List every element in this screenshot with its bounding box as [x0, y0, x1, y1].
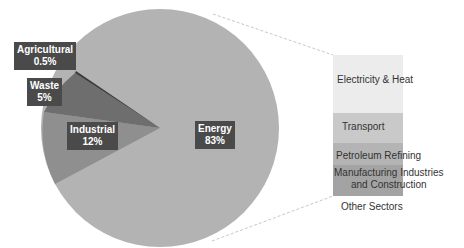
label-energy-value: 83% — [198, 135, 232, 147]
label-energy: Energy 83% — [195, 121, 235, 149]
bar-label-petroleum-refining: Petroleum Refining — [336, 150, 421, 162]
label-waste-name: Waste — [30, 80, 59, 92]
label-agricultural: Agricultural 0.5% — [14, 42, 76, 70]
label-agricultural-value: 0.5% — [17, 56, 73, 68]
label-industrial-name: Industrial — [70, 124, 115, 136]
bar-label-manufacturing: Manufacturing Industries and Constructio… — [334, 167, 444, 191]
bar-label-electricity-heat: Electricity & Heat — [337, 74, 413, 86]
bar-label-manufacturing-line1: Manufacturing Industries — [334, 167, 444, 179]
label-waste-value: 5% — [30, 92, 59, 104]
label-agricultural-name: Agricultural — [17, 44, 73, 56]
label-energy-name: Energy — [198, 123, 232, 135]
label-industrial: Industrial 12% — [67, 122, 118, 150]
label-industrial-value: 12% — [70, 136, 115, 148]
bar-label-other-sectors: Other Sectors — [341, 201, 403, 213]
bar-label-transport: Transport — [342, 121, 384, 133]
label-waste: Waste 5% — [27, 78, 62, 106]
bar-label-manufacturing-line2: and Construction — [334, 179, 444, 191]
